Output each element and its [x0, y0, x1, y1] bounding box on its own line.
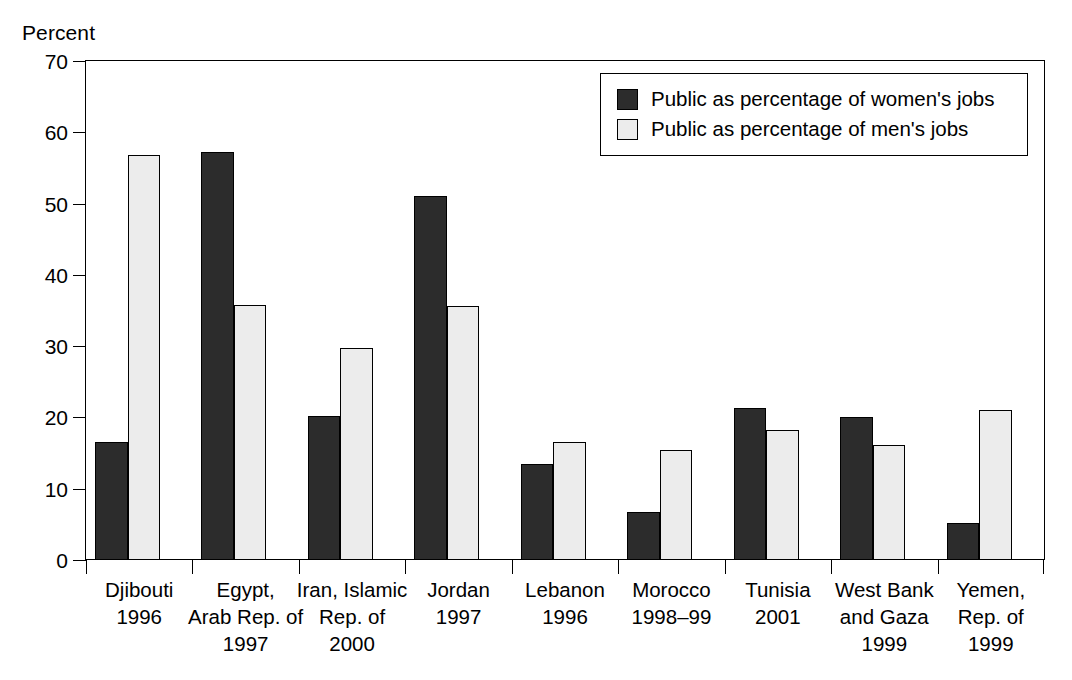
y-axis-tick-mark [73, 204, 86, 205]
bar [947, 523, 979, 560]
y-axis-tick-label: 30 [4, 336, 68, 357]
chart-page: Percent 010203040506070 Djibouti1996Egyp… [0, 0, 1072, 680]
legend-item-women: Public as percentage of women's jobs [617, 84, 1013, 114]
bar [627, 512, 659, 560]
bar [979, 410, 1011, 560]
y-axis-tick-label: 50 [4, 193, 68, 214]
bar [734, 408, 766, 560]
y-axis-tick-label: 70 [4, 51, 68, 72]
x-axis-tick-mark [405, 560, 406, 574]
x-axis-tick-mark [299, 560, 300, 574]
x-axis-tick-mark [725, 560, 726, 574]
x-axis-category-label-line: 1999 [928, 630, 1054, 657]
x-axis-category-label-line: Rep. of [928, 603, 1054, 630]
y-axis-tick-mark [73, 275, 86, 276]
x-axis-category-label: Yemen,Rep. of1999 [928, 576, 1054, 657]
y-axis-tick-mark [73, 489, 86, 490]
x-axis-category-label-line: 2000 [289, 630, 415, 657]
bar [660, 450, 692, 560]
bar [521, 464, 553, 560]
x-axis-ticks [86, 560, 1044, 576]
x-axis-tick-mark [192, 560, 193, 574]
y-axis-tick-mark [73, 560, 86, 561]
legend-label-men: Public as percentage of men's jobs [651, 119, 968, 140]
bar [553, 442, 585, 560]
x-axis-tick-mark [86, 560, 87, 574]
bar [873, 445, 905, 560]
y-axis-tick-mark [73, 346, 86, 347]
bar [95, 442, 127, 560]
bar [414, 196, 446, 560]
legend-item-men: Public as percentage of men's jobs [617, 114, 1013, 144]
y-axis-tick-mark [73, 61, 86, 62]
y-axis-tick-label: 40 [4, 264, 68, 285]
x-axis-category-label-line: Yemen, [928, 576, 1054, 603]
x-axis-tick-mark [618, 560, 619, 574]
y-axis-tick-mark [73, 417, 86, 418]
bar [447, 306, 479, 560]
legend-label-women: Public as percentage of women's jobs [651, 89, 995, 110]
y-axis-tick-label: 60 [4, 122, 68, 143]
bar [340, 348, 372, 560]
bar [840, 417, 872, 560]
y-axis-tick-label: 0 [4, 550, 68, 571]
y-axis-tick-mark [73, 132, 86, 133]
bar [128, 155, 160, 560]
x-axis-tick-mark [512, 560, 513, 574]
bar [308, 416, 340, 560]
bar [766, 430, 798, 560]
bar [201, 152, 233, 560]
x-axis-tick-mark [1043, 560, 1044, 574]
bar [234, 305, 266, 560]
x-axis-tick-mark [831, 560, 832, 574]
x-axis-tick-mark [938, 560, 939, 574]
y-axis-tick-label: 20 [4, 407, 68, 428]
legend-swatch-light-icon [617, 119, 638, 140]
legend: Public as percentage of women's jobs Pub… [600, 73, 1028, 156]
y-axis-tick-label: 10 [4, 478, 68, 499]
x-axis-labels: Djibouti1996Egypt,Arab Rep. of1997Iran, … [86, 576, 1044, 676]
y-axis-labels: 010203040506070 [0, 0, 68, 680]
legend-swatch-dark-icon [617, 89, 638, 110]
